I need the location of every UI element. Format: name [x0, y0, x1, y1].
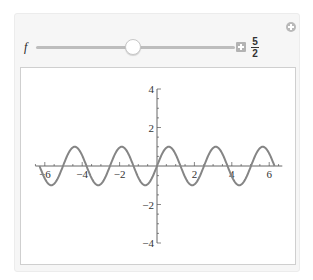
axes — [35, 89, 282, 243]
y-tick-label: −2 — [142, 199, 154, 211]
y-tick-label: −4 — [142, 237, 154, 249]
x-tick-label: 2 — [192, 168, 198, 180]
y-tick-label: 4 — [149, 83, 155, 95]
x-tick-label: −2 — [114, 168, 126, 180]
plot: −6−4−2246−4−224 — [0, 0, 313, 280]
x-tick-label: 6 — [266, 168, 272, 180]
y-tick-label: 2 — [149, 122, 155, 134]
x-tick-label: −4 — [76, 168, 88, 180]
